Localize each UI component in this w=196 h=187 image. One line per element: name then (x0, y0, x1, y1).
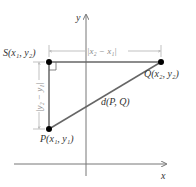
distance-diagram: x y |x₂ − x₁| |y₂ − y₁| S(x₁, y₂) Q(x₂, … (0, 0, 196, 187)
distance-label: d(P, Q) (101, 96, 130, 108)
point-S-label: S(x₁, y₂) (3, 47, 36, 59)
point-Q (158, 59, 164, 65)
horizontal-dim-label: |x₂ − x₁| (87, 46, 117, 56)
y-axis-label: y (75, 12, 81, 23)
x-axis-label: x (160, 170, 166, 181)
vertical-dim-label: |y₂ − y₁| (34, 82, 44, 112)
point-P-label: P(x₁, y₁) (39, 133, 74, 145)
point-P (46, 126, 52, 132)
point-S (46, 59, 52, 65)
point-Q-label: Q(x₂, y₂) (144, 68, 179, 80)
